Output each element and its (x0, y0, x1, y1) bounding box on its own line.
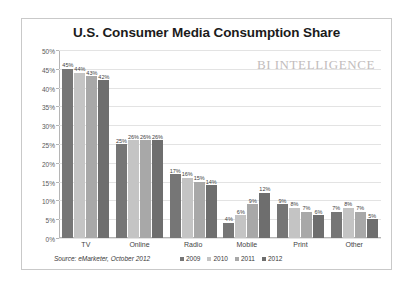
y-axis-tick-label: 30% (42, 123, 55, 130)
bar-value-label: 6% (315, 209, 323, 215)
chart-container: U.S. Consumer Media Consumption Share BI… (21, 18, 392, 270)
legend-item[interactable]: 2010 (207, 255, 227, 262)
bar[interactable] (289, 208, 300, 238)
bar[interactable] (355, 212, 366, 238)
bar-slot: 44% (74, 50, 85, 238)
legend-item[interactable]: 2009 (180, 255, 200, 262)
legend-swatch-icon (180, 257, 184, 261)
legend-swatch-icon (207, 257, 211, 261)
bar-value-label: 17% (170, 168, 181, 174)
bars: 45%44%43%42% (59, 50, 113, 238)
x-axis-category-label: Print (274, 241, 328, 248)
bar-value-label: 8% (291, 201, 299, 207)
bar-slot: 4% (223, 50, 234, 238)
bar-value-label: 15% (194, 175, 205, 181)
bar[interactable] (62, 69, 73, 238)
bar-value-label: 25% (116, 138, 127, 144)
bars: 9%8%7%6% (274, 50, 328, 238)
bar-value-label: 9% (249, 198, 257, 204)
x-axis-category-label: Radio (166, 241, 220, 248)
bar-slot: 5% (367, 50, 378, 238)
bar[interactable] (86, 76, 97, 238)
bar[interactable] (194, 182, 205, 238)
y-axis-tick-label: 15% (42, 179, 55, 186)
bar-value-label: 7% (303, 205, 311, 211)
bar[interactable] (74, 73, 85, 238)
y-axis-tick-label: 40% (42, 85, 55, 92)
bar-slot: 16% (182, 50, 193, 238)
bar-slot: 17% (170, 50, 181, 238)
bar-value-label: 26% (152, 134, 163, 140)
legend-label: 2011 (241, 255, 255, 262)
bar[interactable] (259, 193, 270, 238)
bars: 25%26%26%26% (113, 50, 167, 238)
bar[interactable] (313, 215, 324, 238)
gridline: 0% (59, 238, 381, 239)
bar-slot: 7% (301, 50, 312, 238)
bar-slot: 15% (194, 50, 205, 238)
bar-value-label: 6% (237, 209, 245, 215)
y-axis-tick-label: 25% (42, 142, 55, 149)
legend-label: 2012 (268, 255, 282, 262)
legend-item[interactable]: 2011 (235, 255, 255, 262)
bar[interactable] (277, 204, 288, 238)
bar[interactable] (98, 80, 109, 238)
x-axis-category-label: Other (327, 241, 381, 248)
bar[interactable] (170, 174, 181, 238)
bar[interactable] (301, 212, 312, 238)
x-axis-category-label: Mobile (220, 241, 274, 248)
bar-slot: 7% (331, 50, 342, 238)
chart-title: U.S. Consumer Media Consumption Share (22, 25, 391, 40)
bar-value-label: 7% (332, 205, 340, 211)
legend-swatch-icon (235, 257, 239, 261)
bar-slot: 8% (289, 50, 300, 238)
bar-slot: 25% (116, 50, 127, 238)
bar-slot: 45% (62, 50, 73, 238)
bar[interactable] (367, 219, 378, 238)
y-axis-tick-label: 20% (42, 160, 55, 167)
bar-slot: 12% (259, 50, 270, 238)
x-axis-labels: TVOnlineRadioMobilePrintOther (59, 241, 381, 248)
bar-slot: 14% (206, 50, 217, 238)
bar[interactable] (182, 178, 193, 238)
bar-groups: 45%44%43%42%25%26%26%26%17%16%15%14%4%6%… (59, 50, 381, 238)
bar-value-label: 43% (86, 70, 97, 76)
bar-value-label: 9% (279, 198, 287, 204)
bar[interactable] (247, 204, 258, 238)
bar[interactable] (140, 140, 151, 238)
bar[interactable] (223, 223, 234, 238)
bar[interactable] (235, 215, 246, 238)
bar-group: 25%26%26%26% (113, 50, 167, 238)
bar-slot: 8% (343, 50, 354, 238)
bar[interactable] (116, 144, 127, 238)
bar-value-label: 7% (356, 205, 364, 211)
bar-value-label: 8% (344, 201, 352, 207)
bar-value-label: 44% (74, 66, 85, 72)
x-axis-category-label: TV (59, 241, 113, 248)
legend-swatch-icon (262, 257, 266, 261)
bars: 7%8%7%5% (327, 50, 381, 238)
bar[interactable] (331, 212, 342, 238)
bar-group: 9%8%7%6% (274, 50, 328, 238)
source-note: Source: eMarketer, October 2012 (54, 255, 150, 262)
bar-value-label: 26% (140, 134, 151, 140)
bar[interactable] (343, 208, 354, 238)
bar[interactable] (128, 140, 139, 238)
bar[interactable] (206, 185, 217, 238)
bar-slot: 6% (313, 50, 324, 238)
bar-group: 4%6%9%12% (220, 50, 274, 238)
bar-slot: 43% (86, 50, 97, 238)
legend-item[interactable]: 2012 (262, 255, 282, 262)
bar-slot: 9% (247, 50, 258, 238)
bars: 4%6%9%12% (220, 50, 274, 238)
y-axis-tick-label: 50% (42, 48, 55, 55)
bar[interactable] (152, 140, 163, 238)
bars: 17%16%15%14% (166, 50, 220, 238)
chart-footer: Source: eMarketer, October 2012 20092010… (22, 255, 391, 269)
x-axis-category-label: Online (113, 241, 167, 248)
bar-value-label: 16% (182, 171, 193, 177)
bar-value-label: 5% (368, 213, 376, 219)
chart-legend: 2009201020112012 (180, 255, 282, 262)
bar-group: 17%16%15%14% (166, 50, 220, 238)
bar-slot: 6% (235, 50, 246, 238)
